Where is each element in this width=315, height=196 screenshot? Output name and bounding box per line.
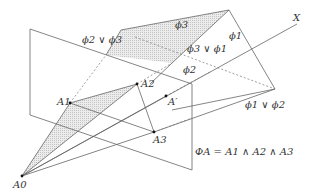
label-A1: A1	[57, 97, 71, 107]
label-phi1: ϕ1	[229, 31, 242, 41]
label-phi1-or-phi2: ϕ1 ∨ ϕ2	[245, 100, 285, 110]
phi3-region	[106, 10, 229, 63]
label-A2: A2	[141, 79, 155, 89]
label-phi3-or-phi1: ϕ3 ∨ ϕ1	[187, 44, 227, 54]
label-x-axis: X	[293, 13, 300, 23]
label-A3: A3	[153, 135, 167, 145]
label-phi2: ϕ2	[183, 65, 196, 75]
diagram-canvas	[0, 0, 315, 196]
point-A0	[21, 175, 24, 178]
label-A0: A0	[13, 180, 27, 190]
label-phi3: ϕ3	[175, 20, 188, 30]
diagram: X ϕ3 ϕ1 ϕ3 ∨ ϕ1 ϕ2 ∨ ϕ3 ϕ2 ϕ1 ∨ ϕ2 A1 A2…	[0, 0, 315, 196]
point-A-prime	[165, 95, 168, 98]
label-Phi-A: ΦA = A1 ∧ A2 ∧ A3	[195, 147, 293, 157]
point-A3	[153, 131, 156, 134]
label-A-prime: A′	[168, 97, 178, 107]
label-phi2-or-phi3: ϕ2 ∨ ϕ3	[82, 35, 122, 45]
point-A2	[136, 83, 139, 86]
